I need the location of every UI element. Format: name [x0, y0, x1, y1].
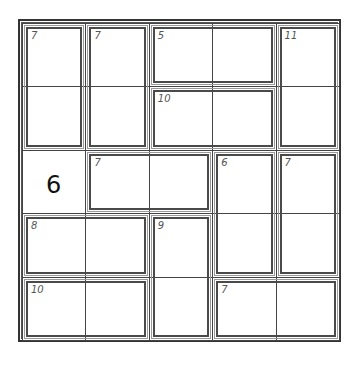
- cage: [153, 27, 273, 83]
- cage: [153, 217, 209, 337]
- cage-sum-clue: 7: [94, 157, 100, 168]
- cage-sum-clue: 7: [31, 30, 37, 41]
- cage-sum-clue: 7: [285, 157, 291, 168]
- cage-sum-clue: 8: [31, 220, 37, 231]
- killer-sudoku-board: 6 775111076789107: [0, 0, 356, 371]
- cage: [280, 154, 336, 274]
- given-digit: 6: [22, 154, 85, 217]
- cage: [216, 281, 336, 337]
- cage-sum-clue: 9: [158, 220, 164, 231]
- cage: [153, 90, 273, 146]
- cage-sum-clue: 10: [31, 284, 44, 295]
- cage-sum-clue: 11: [285, 30, 298, 41]
- cage: [26, 27, 82, 147]
- cage-sum-clue: 7: [94, 30, 100, 41]
- cage: [216, 154, 272, 274]
- cage: [280, 27, 336, 147]
- cage: [89, 154, 209, 210]
- cage: [89, 27, 145, 147]
- cage: [26, 217, 146, 273]
- cage-sum-clue: 6: [221, 157, 227, 168]
- cage-sum-clue: 5: [158, 30, 164, 41]
- cage-sum-clue: 10: [158, 93, 171, 104]
- cage-sum-clue: 7: [221, 284, 227, 295]
- cage: [26, 281, 146, 337]
